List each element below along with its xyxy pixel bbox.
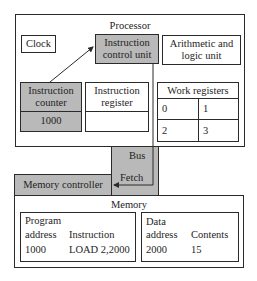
connector-layer xyxy=(0,0,257,281)
counter-to-control-arrow xyxy=(50,47,93,82)
control-to-memory-controller-arrow xyxy=(114,64,153,185)
